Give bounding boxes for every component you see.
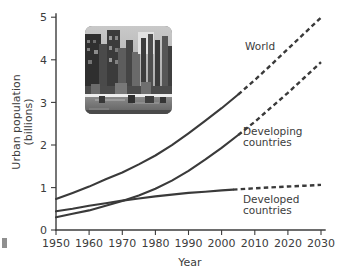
x-tick-label-2010: 2010	[241, 237, 269, 250]
x-axis-ticks	[56, 230, 321, 235]
series-label-developing-line2: countries	[243, 136, 292, 148]
y-tick-label-0: 0	[40, 224, 47, 237]
x-tick-label-2030: 2030	[307, 237, 335, 250]
y-axis-title: Urban population (billions)	[10, 74, 35, 169]
x-axis-title: Year	[177, 256, 202, 269]
y-axis-tick-labels: 5 4 3 2 1 0	[40, 11, 47, 237]
y-tick-label-2: 2	[40, 139, 47, 152]
y-axis-ticks	[51, 17, 56, 230]
y-axis-title-line2: (billions)	[22, 98, 35, 145]
x-tick-label-1960: 1960	[75, 237, 103, 250]
x-axis-tick-labels: 1950 1960 1970 1980 1990 2000 2010 2020 …	[42, 237, 335, 250]
x-tick-label-2020: 2020	[274, 237, 302, 250]
x-tick-label-1980: 1980	[141, 237, 169, 250]
urban-cityscape-photo	[85, 26, 172, 114]
x-tick-label-1970: 1970	[108, 237, 136, 250]
y-tick-label-4: 4	[40, 54, 47, 67]
y-tick-label-1: 1	[40, 182, 47, 195]
y-tick-label-5: 5	[40, 11, 47, 24]
series-label-world: World	[245, 40, 275, 52]
series-label-developed-line2: countries	[243, 204, 292, 216]
figure-container: 5 4 3 2 1 0 Urban population (billions) …	[0, 0, 338, 276]
y-tick-label-3: 3	[40, 97, 47, 110]
x-tick-label-1950: 1950	[42, 237, 70, 250]
cityscape-photo-graphic	[85, 26, 172, 114]
x-tick-label-1990: 1990	[175, 237, 203, 250]
x-tick-label-2000: 2000	[208, 237, 236, 250]
page-margin-mark	[2, 238, 7, 248]
